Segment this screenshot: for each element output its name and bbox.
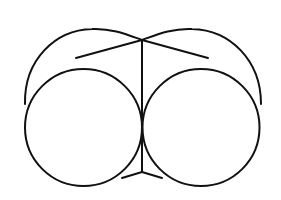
left-bottom-tangent (122, 172, 142, 178)
diagram-canvas (0, 0, 281, 200)
right-top-tangent (142, 40, 208, 58)
left-circle (25, 69, 142, 186)
left-outer-arc (25, 29, 142, 104)
right-circle (143, 69, 260, 186)
left-top-tangent (76, 40, 142, 58)
right-outer-arc (142, 29, 261, 104)
right-bottom-tangent (142, 172, 162, 178)
